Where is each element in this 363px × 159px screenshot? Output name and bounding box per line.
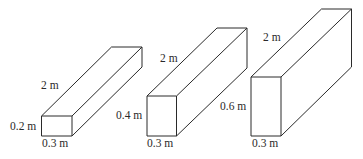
box-1-side-face [72, 47, 142, 136]
box-3-front-face [251, 77, 281, 136]
box-1-front-face [42, 116, 73, 136]
box-3-length-label: 2 m [263, 32, 281, 44]
box-3 [251, 9, 352, 136]
box-3-width-label: 0.3 m [252, 138, 278, 150]
box-2-height-label: 0.4 m [116, 110, 142, 122]
box-3-height-label: 0.6 m [220, 101, 246, 113]
box-1 [42, 47, 143, 136]
box-1-width-label: 0.3 m [42, 138, 68, 150]
box-2-front-face [147, 96, 177, 136]
box-2-side-face [177, 28, 248, 136]
box-3-side-face [281, 9, 352, 136]
box-1-length-label: 2 m [41, 80, 59, 92]
box-2-length-label: 2 m [160, 53, 178, 65]
box-2 [147, 28, 247, 136]
box-1-height-label: 0.2 m [10, 121, 36, 133]
box-2-width-label: 0.3 m [147, 138, 173, 150]
